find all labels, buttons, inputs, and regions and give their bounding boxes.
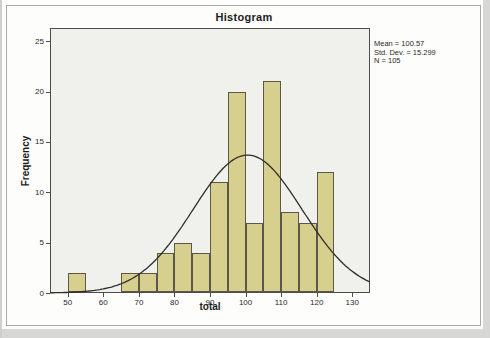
spss-output-canvas: Histogram Mean = 100.57 Std. Dev. = 15.2… [0, 0, 490, 338]
x-tick-mark [352, 293, 353, 297]
y-tick-label: 25 [24, 37, 44, 46]
x-tick-mark [210, 293, 211, 297]
histogram-bar [157, 253, 175, 292]
scan-edge [483, 0, 490, 338]
chart-title: Histogram [6, 11, 482, 23]
stats-box: Mean = 100.57 Std. Dev. = 15.299 N = 105 [374, 40, 480, 66]
histogram-bar [263, 81, 281, 292]
scan-edge [0, 329, 490, 338]
x-tick-mark [317, 293, 318, 297]
histogram-bar [174, 243, 192, 292]
y-tick-label: 20 [24, 87, 44, 96]
histogram-bar [121, 273, 139, 292]
y-tick-label: 5 [24, 238, 44, 247]
y-tick-mark [46, 142, 50, 143]
x-tick-mark [103, 293, 104, 297]
x-tick-mark [139, 293, 140, 297]
y-axis-title: Frequency [20, 111, 32, 211]
histogram-bar [246, 223, 264, 293]
histogram-bar [317, 172, 335, 292]
histogram-bar [281, 212, 299, 292]
histogram-bar [68, 273, 86, 292]
y-tick-mark [46, 243, 50, 244]
histogram-bar [139, 273, 157, 292]
histogram-bar [299, 223, 317, 293]
y-tick-mark [46, 293, 50, 294]
x-tick-mark [174, 293, 175, 297]
x-tick-mark [246, 293, 247, 297]
stat-n: N = 105 [374, 57, 480, 66]
x-tick-mark [281, 293, 282, 297]
x-axis-title: total [160, 301, 260, 312]
histogram-bar [192, 253, 210, 292]
y-tick-mark [46, 92, 50, 93]
x-tick-label: 60 [91, 298, 115, 307]
x-tick-mark [68, 293, 69, 297]
x-tick-label: 120 [305, 298, 329, 307]
x-tick-label: 70 [127, 298, 151, 307]
x-tick-label: 130 [340, 298, 364, 307]
histogram-bar [228, 92, 246, 293]
x-tick-label: 110 [269, 298, 293, 307]
x-tick-label: 50 [56, 298, 80, 307]
histogram-bar [210, 182, 228, 292]
y-tick-mark [46, 41, 50, 42]
y-tick-label: 0 [24, 289, 44, 298]
y-tick-mark [46, 192, 50, 193]
scan-edge [0, 0, 2, 338]
